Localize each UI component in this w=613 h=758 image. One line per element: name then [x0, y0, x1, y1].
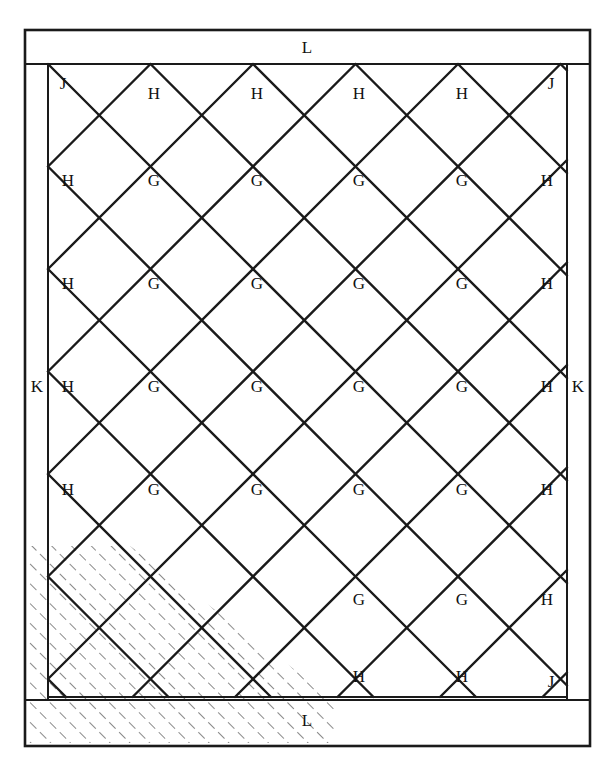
patch-label-g: G	[148, 171, 160, 190]
patch-label-h: H	[148, 84, 160, 103]
patch-label-l: L	[302, 38, 312, 57]
patch-label-g: G	[353, 480, 365, 499]
patch-label-h: H	[62, 171, 74, 190]
patch-label-g: G	[251, 171, 263, 190]
patch-label-h: H	[541, 171, 553, 190]
patch-label-h: H	[456, 667, 468, 686]
quilt-layout-diagram: JHHHHJHGGGGHHGGGGHHGGGGHHGGGGHGGHHHJLLKK	[0, 0, 613, 758]
patch-label-j: J	[548, 672, 555, 691]
patch-label-h: H	[541, 274, 553, 293]
patch-label-g: G	[148, 274, 160, 293]
patch-label-k: K	[31, 377, 44, 396]
patch-label-h: H	[353, 84, 365, 103]
patch-label-g: G	[353, 590, 365, 609]
patch-label-h: H	[62, 274, 74, 293]
patch-label-g: G	[251, 274, 263, 293]
patch-label-j: J	[60, 74, 67, 93]
patch-label-g: G	[251, 480, 263, 499]
patch-label-h: H	[62, 377, 74, 396]
patch-label-g: G	[456, 274, 468, 293]
patch-label-h: H	[541, 480, 553, 499]
patch-label-g: G	[456, 171, 468, 190]
patch-label-g: G	[251, 377, 263, 396]
patch-label-h: H	[456, 84, 468, 103]
patch-label-g: G	[353, 171, 365, 190]
patch-label-j: J	[548, 74, 555, 93]
patch-label-h: H	[353, 667, 365, 686]
patch-label-l: L	[302, 711, 312, 730]
patch-label-g: G	[456, 377, 468, 396]
patch-label-g: G	[148, 377, 160, 396]
patch-label-h: H	[541, 377, 553, 396]
patch-label-h: H	[541, 590, 553, 609]
patch-label-k: K	[572, 377, 585, 396]
patch-label-g: G	[353, 274, 365, 293]
patch-label-h: H	[62, 480, 74, 499]
patch-label-g: G	[148, 480, 160, 499]
patch-label-g: G	[353, 377, 365, 396]
patch-label-h: H	[251, 84, 263, 103]
patch-label-g: G	[456, 590, 468, 609]
patch-label-g: G	[456, 480, 468, 499]
